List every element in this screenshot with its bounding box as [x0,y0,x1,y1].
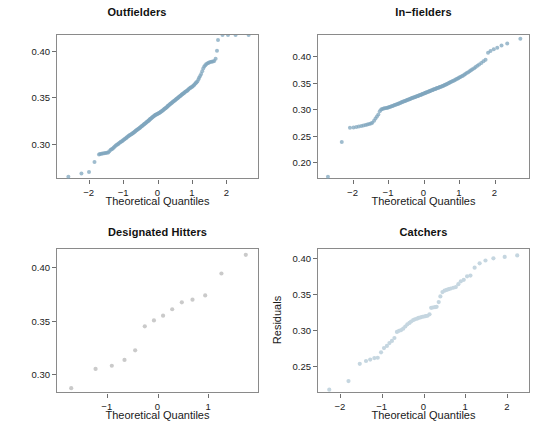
y-tick-label: 0.35 [22,92,50,103]
y-tick-label: 0.40 [283,51,311,62]
plot-area-catchers [317,248,530,393]
x-tick-mark [192,180,193,184]
y-tick-mark [313,162,317,163]
y-tick-mark [52,97,56,98]
y-tick-mark [52,374,56,375]
panel-catchers: Catchers 0.250.300.350.40 −2−1012 Theore… [273,226,547,439]
x-axis-title-designated-hitters: Theoretical Quantiles [56,409,259,421]
x-tick-mark [388,180,389,184]
x-tick-mark [459,180,460,184]
x-tick-mark [424,394,425,398]
x-tick-mark [158,180,159,184]
y-tick-label: 0.40 [22,262,50,273]
scatter-points-outfielders [57,35,260,180]
panel-title-infielders: In−fielders [317,6,530,18]
x-tick-mark [89,180,90,184]
y-tick-mark [313,56,317,57]
y-tick-mark [52,321,56,322]
y-tick-label: 0.35 [22,315,50,326]
y-tick-mark [313,136,317,137]
y-tick-label: 0.40 [283,253,311,264]
plot-area-outfielders [56,34,259,179]
y-tick-label: 0.30 [22,138,50,149]
scatter-points-infielders [318,35,531,180]
y-tick-mark [52,267,56,268]
panel-title-outfielders: Outfielders [0,6,274,18]
y-tick-label: 0.25 [283,130,311,141]
y-tick-mark [313,258,317,259]
y-tick-mark [313,109,317,110]
panel-designated-hitters: Designated Hitters 0.300.350.40 −101 The… [0,226,274,439]
panel-infielders: In−fielders 0.200.250.300.350.40 −2−1012… [273,6,547,219]
y-tick-label: 0.30 [22,368,50,379]
y-tick-label: 0.30 [283,324,311,335]
x-tick-mark [424,180,425,184]
x-tick-mark [353,180,354,184]
panel-outfielders: Outfielders 0.300.350.40 −2−1012 Theoret… [0,6,274,219]
x-tick-mark [208,394,209,398]
x-axis-title-catchers: Theoretical Quantiles [317,409,530,421]
y-tick-label: 0.35 [283,77,311,88]
x-tick-mark [507,394,508,398]
x-tick-mark [226,180,227,184]
y-tick-label: 0.20 [283,157,311,168]
x-tick-mark [340,394,341,398]
x-axis-title-infielders: Theoretical Quantiles [317,195,530,207]
plot-area-infielders [317,34,530,179]
x-tick-mark [495,180,496,184]
qq-plot-figure: Outfielders 0.300.350.40 −2−1012 Theoret… [0,0,547,439]
x-tick-mark [382,394,383,398]
x-tick-mark [465,394,466,398]
scatter-points-designated-hitters [57,249,260,394]
y-tick-mark [52,51,56,52]
y-tick-mark [313,83,317,84]
y-axis-title-residuals: Residuals [271,290,283,350]
y-tick-mark [313,294,317,295]
x-tick-mark [158,394,159,398]
panel-title-designated-hitters: Designated Hitters [56,226,259,238]
y-tick-mark [313,366,317,367]
y-tick-label: 0.25 [283,360,311,371]
y-tick-label: 0.35 [283,288,311,299]
y-tick-label: 0.30 [283,104,311,115]
x-tick-mark [123,180,124,184]
scatter-points-catchers [318,249,531,394]
y-tick-label: 0.40 [22,45,50,56]
y-tick-mark [52,144,56,145]
panel-title-catchers: Catchers [317,226,530,238]
x-axis-title-outfielders: Theoretical Quantiles [56,195,259,207]
plot-area-designated-hitters [56,248,259,393]
y-tick-mark [313,330,317,331]
x-tick-mark [107,394,108,398]
